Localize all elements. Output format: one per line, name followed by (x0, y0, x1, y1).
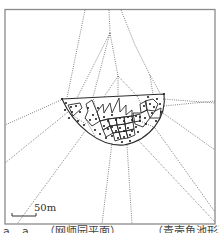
dotted-sightline (163, 113, 215, 150)
node-point (65, 102, 67, 104)
node-point (117, 137, 119, 139)
node-point (160, 111, 162, 113)
dotted-sightline (5, 100, 61, 125)
node-point (115, 119, 117, 121)
node-point (68, 117, 70, 119)
node-point (107, 120, 109, 122)
caption-marker-2: a (22, 226, 29, 233)
node-point (143, 105, 145, 107)
node-point (129, 134, 131, 136)
dotted-sightline (102, 143, 112, 224)
node-point (71, 111, 73, 113)
dotted-sightline (137, 96, 141, 104)
figure-frame (5, 10, 215, 225)
node-point (111, 135, 113, 137)
dotted-sightline (121, 10, 160, 93)
node-point (147, 96, 149, 98)
node-point (64, 109, 66, 111)
node-point (83, 124, 85, 126)
scale-bar (12, 213, 36, 216)
space-cell (133, 110, 150, 127)
node-point (127, 127, 129, 129)
node-point (75, 105, 77, 107)
node-point (119, 117, 121, 119)
node-point (95, 118, 97, 120)
node-point (159, 103, 161, 105)
node-point (89, 119, 91, 121)
sightline-network (5, 10, 215, 224)
node-point (131, 119, 133, 121)
dotted-sightline (155, 128, 215, 212)
node-point (127, 116, 129, 118)
node-point (77, 120, 79, 122)
scale-bar-label: 50m (34, 203, 56, 213)
dotted-sightline (109, 10, 110, 33)
node-point (129, 140, 131, 142)
caption-marker-1: a (3, 226, 10, 233)
dotted-sightline (77, 33, 110, 98)
node-point (139, 116, 141, 118)
dotted-sightline (93, 33, 110, 97)
dotted-sightline (110, 33, 118, 76)
space-cell (126, 129, 135, 138)
node-point (99, 133, 101, 135)
node-point (139, 120, 141, 122)
node-point (149, 103, 151, 105)
caption-left-title: （网师园平面） (44, 226, 121, 233)
caption-right-title: （青壳鱼池形） (152, 226, 219, 233)
node-point (97, 107, 99, 109)
dotted-sightline (164, 101, 215, 106)
node-point (131, 130, 133, 132)
node-point (144, 117, 146, 119)
node-point (119, 127, 121, 129)
node-point (111, 114, 113, 116)
dotted-sightline (150, 75, 153, 95)
node-point (94, 129, 96, 131)
dotted-sightline (118, 76, 137, 96)
node-point (123, 130, 125, 132)
node-point (107, 128, 109, 130)
node-point (61, 98, 63, 100)
dotted-sightline (127, 145, 132, 224)
dotted-sightline (5, 112, 68, 163)
dotted-sightline (138, 140, 215, 222)
node-point (137, 131, 139, 133)
node-point (135, 115, 137, 117)
node-point (151, 112, 153, 114)
node-point (156, 98, 158, 100)
node-point (79, 111, 81, 113)
node-point (123, 136, 125, 138)
space-cell (97, 98, 132, 121)
node-point (155, 120, 157, 122)
node-point (105, 137, 107, 139)
node-point (163, 93, 165, 95)
node-point (145, 123, 147, 125)
dotted-sightline (163, 99, 215, 103)
node-point (92, 114, 94, 116)
node-point (103, 116, 105, 118)
node-point (135, 126, 137, 128)
dotted-sightline (104, 76, 118, 97)
garden-plan-diagram (0, 0, 219, 233)
node-point (123, 120, 125, 122)
node-point (153, 106, 155, 108)
node-point (87, 107, 89, 109)
dotted-sightline (67, 10, 85, 98)
node-point (70, 106, 72, 108)
node-point (111, 126, 113, 128)
node-point (103, 125, 105, 127)
node-point (115, 130, 117, 132)
node-point (121, 141, 123, 143)
